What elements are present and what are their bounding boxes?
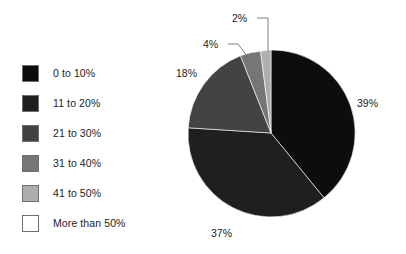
pie-value-label-2: 2% xyxy=(232,13,247,24)
pie-plot-area: 39% 37% 18% 4% 2% xyxy=(0,0,406,254)
pie-value-label-37: 37% xyxy=(211,228,232,239)
pie-value-label-18: 18% xyxy=(176,68,197,79)
pie-value-label-39: 39% xyxy=(357,98,378,109)
pie-chart-figure: 0 to 10% 11 to 20% 21 to 30% 31 to 40% 4… xyxy=(0,0,406,254)
pie-value-label-4: 4% xyxy=(203,39,218,50)
leader-line-2-percent xyxy=(257,18,268,51)
